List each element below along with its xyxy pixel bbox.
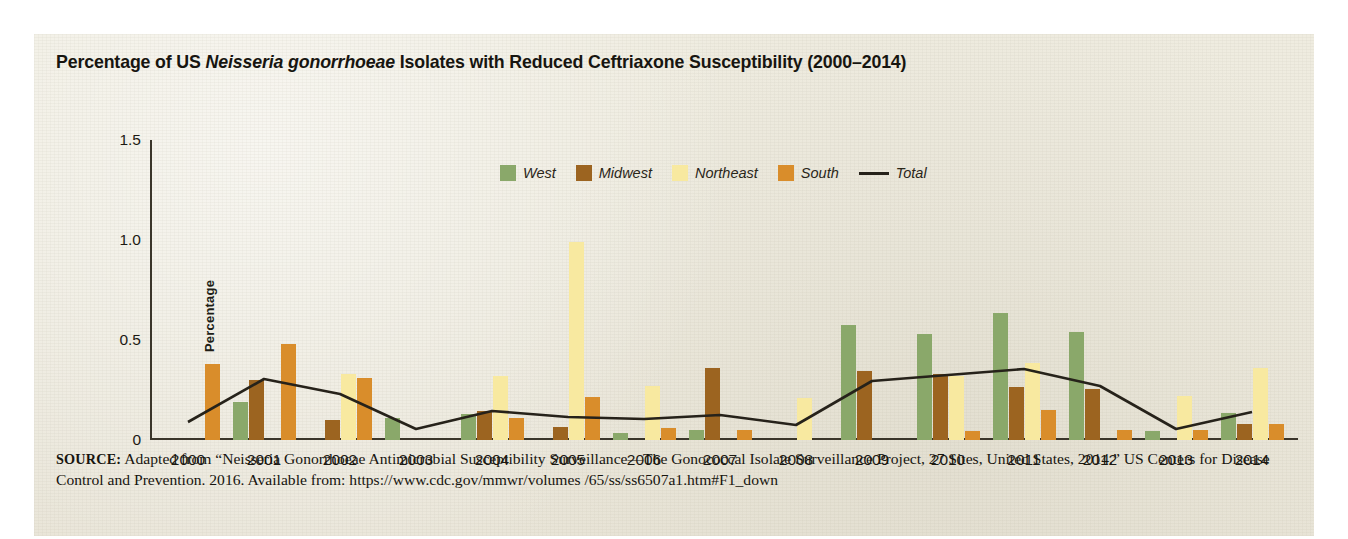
bar-midwest [1085, 389, 1100, 440]
bar-northeast [493, 376, 508, 440]
chart-title-prefix: Percentage of US [56, 51, 206, 72]
y-tick-label: 0 [132, 431, 141, 449]
bar-group: 2009 [834, 140, 910, 440]
bar-group: 2001 [226, 140, 302, 440]
bar-west [917, 334, 932, 440]
bar-midwest [705, 368, 720, 440]
bar-midwest [857, 371, 872, 440]
bar-northeast [1025, 363, 1040, 440]
source-text: Adapted from “Neisseria Gonorrhoeae Anti… [56, 450, 1270, 488]
bar-midwest [1237, 424, 1252, 440]
bar-group: 2013 [1138, 140, 1214, 440]
bar-south [1269, 424, 1284, 440]
bar-south [1193, 430, 1208, 440]
chart-title-suffix: Isolates with Reduced Ceftriaxone Suscep… [395, 51, 906, 72]
bar-west [385, 418, 400, 440]
bar-group: 2004 [454, 140, 530, 440]
bar-group: 2011 [986, 140, 1062, 440]
figure-panel: Percentage of US Neisseria gonorrhoeae I… [34, 34, 1314, 536]
bar-northeast [645, 386, 660, 440]
bar-midwest [553, 427, 568, 440]
bar-west [689, 430, 704, 440]
bar-northeast [1177, 396, 1192, 440]
chart-title-species: Neisseria gonorrhoeae [206, 51, 395, 72]
bar-group: 2002 [302, 140, 378, 440]
bar-midwest [477, 411, 492, 440]
bar-northeast [341, 374, 356, 440]
bar-south [205, 364, 220, 440]
bar-group: 2010 [910, 140, 986, 440]
y-tick-label: 1.0 [119, 231, 141, 249]
bar-south [737, 430, 752, 440]
bar-midwest [1009, 387, 1024, 440]
y-tick-label: 0.5 [119, 331, 141, 349]
bar-west [613, 433, 628, 440]
bar-south [281, 344, 296, 440]
source-label: SOURCE: [56, 451, 121, 467]
bar-west [841, 325, 856, 440]
bar-group: 2008 [758, 140, 834, 440]
plot-area: Percentage 00.51.01.5 200020012002200320… [150, 140, 1290, 440]
y-tick-label: 1.5 [119, 131, 141, 149]
bar-south [585, 397, 600, 440]
bar-group: 2000 [150, 140, 226, 440]
source-note: SOURCE: Adapted from “Neisseria Gonorrho… [56, 449, 1291, 491]
bar-west [1145, 431, 1160, 440]
bar-midwest [249, 380, 264, 440]
bar-west [233, 402, 248, 440]
bar-west [1069, 332, 1084, 440]
bar-west [1221, 413, 1236, 440]
bar-northeast [797, 398, 812, 440]
bar-group: 2006 [606, 140, 682, 440]
bar-northeast [569, 242, 584, 440]
bar-group: 2007 [682, 140, 758, 440]
bar-west [461, 414, 476, 440]
bar-group: 2014 [1214, 140, 1290, 440]
bar-south [661, 428, 676, 440]
bar-west [993, 313, 1008, 440]
bar-group: 2012 [1062, 140, 1138, 440]
bar-south [1117, 430, 1132, 440]
bar-midwest [933, 374, 948, 440]
bar-midwest [325, 420, 340, 440]
bar-south [965, 431, 980, 440]
chart-title: Percentage of US Neisseria gonorrhoeae I… [56, 51, 906, 73]
bar-south [509, 418, 524, 440]
bar-group: 2003 [378, 140, 454, 440]
bar-south [357, 378, 372, 440]
bar-northeast [949, 376, 964, 440]
bar-south [1041, 410, 1056, 440]
bar-northeast [1253, 368, 1268, 440]
bar-group: 2005 [530, 140, 606, 440]
